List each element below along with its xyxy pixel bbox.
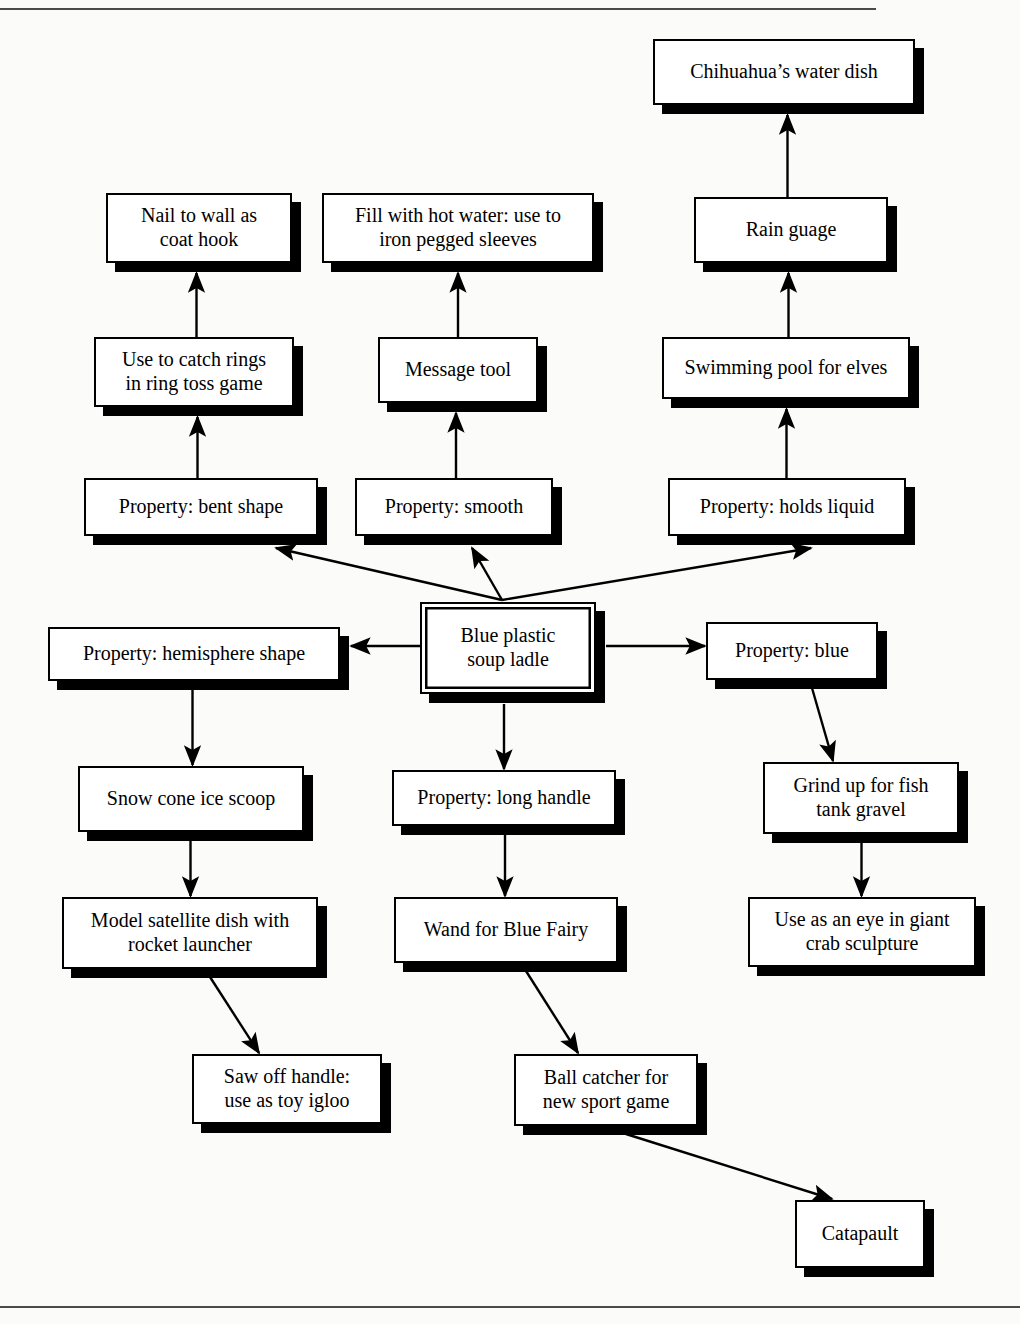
node-swimpool[interactable]: Swimming pool for elves [662, 337, 910, 399]
node-label: Property: holds liquid [700, 495, 874, 519]
node-label: Ball catcher for new sport game [543, 1066, 670, 1113]
node-hemisphere[interactable]: Property: hemisphere shape [48, 627, 340, 681]
node-label: Property: blue [735, 639, 849, 663]
node-wand[interactable]: Wand for Blue Fairy [394, 897, 618, 963]
node-snowcone[interactable]: Snow cone ice scoop [78, 766, 304, 832]
edge-ballcatcher-to-catapault [626, 1134, 832, 1199]
node-hotwater[interactable]: Fill with hot water: use to iron pegged … [322, 193, 594, 263]
edge-ladle-to-holds [502, 548, 811, 600]
edge-blue-to-grindup [812, 688, 833, 761]
node-ladle[interactable]: Blue plastic soup ladle [420, 602, 596, 694]
node-label: Wand for Blue Fairy [424, 918, 588, 942]
node-ballcatcher[interactable]: Ball catcher for new sport game [514, 1054, 698, 1126]
bottom-horizontal-rule [0, 1306, 1020, 1308]
edge-satellite-to-igloo [210, 977, 259, 1053]
node-grindup[interactable]: Grind up for fish tank gravel [763, 762, 959, 834]
node-smooth[interactable]: Property: smooth [355, 478, 553, 536]
node-label: Catapault [822, 1222, 899, 1246]
node-label: Swimming pool for elves [685, 356, 888, 380]
node-label: Nail to wall as coat hook [141, 204, 257, 251]
node-bent[interactable]: Property: bent shape [84, 478, 318, 536]
top-horizontal-rule [0, 8, 876, 10]
node-longhandle[interactable]: Property: long handle [392, 770, 616, 826]
node-label: Property: smooth [385, 495, 523, 519]
node-catapault[interactable]: Catapault [795, 1200, 925, 1268]
node-label: Chihuahua’s water dish [690, 60, 878, 84]
node-label: Message tool [405, 358, 511, 382]
node-label: Model satellite dish with rocket launche… [91, 909, 289, 956]
node-label: Rain guage [746, 218, 837, 242]
edge-ladle-to-bent [276, 548, 502, 600]
node-label: Grind up for fish tank gravel [794, 774, 929, 821]
edge-wand-to-ballcatcher [526, 971, 578, 1053]
node-label: Saw off handle: use as toy igloo [224, 1065, 350, 1112]
node-blue[interactable]: Property: blue [706, 622, 878, 680]
node-crabeye[interactable]: Use as an eye in giant crab sculpture [748, 897, 976, 967]
node-ringtoss[interactable]: Use to catch rings in ring toss game [94, 337, 294, 407]
node-label: Blue plastic soup ladle [461, 624, 556, 671]
node-label: Property: long handle [417, 786, 590, 810]
node-coathook[interactable]: Nail to wall as coat hook [106, 193, 292, 263]
node-holds[interactable]: Property: holds liquid [668, 478, 906, 536]
node-label: Snow cone ice scoop [107, 787, 275, 811]
node-label: Use as an eye in giant crab sculpture [775, 908, 950, 955]
node-label: Use to catch rings in ring toss game [122, 348, 266, 395]
edge-ladle-to-smooth [472, 548, 502, 600]
node-rainguage[interactable]: Rain guage [694, 197, 888, 263]
node-satellite[interactable]: Model satellite dish with rocket launche… [62, 897, 318, 969]
diagram-page: Blue plastic soup ladleProperty: bent sh… [0, 0, 1020, 1324]
node-label: Property: hemisphere shape [83, 642, 305, 666]
node-messagetool[interactable]: Message tool [378, 337, 538, 403]
node-waterdish[interactable]: Chihuahua’s water dish [653, 39, 915, 105]
node-label: Fill with hot water: use to iron pegged … [355, 204, 561, 251]
node-igloo[interactable]: Saw off handle: use as toy igloo [192, 1054, 382, 1124]
node-label: Property: bent shape [119, 495, 283, 519]
